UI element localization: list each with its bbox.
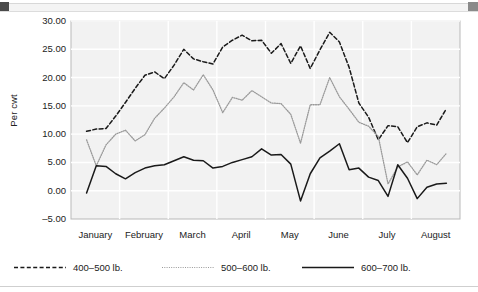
legend-swatch-dotted-icon — [162, 263, 214, 272]
chart-figure: Per cwt 30.0025.0020.0015.0010.005.000.0… — [0, 0, 478, 292]
legend-entry-3: 600–700 lb. — [302, 259, 411, 275]
x-axis-tick: February — [125, 229, 163, 240]
x-axis-tick: June — [328, 229, 349, 240]
chart-legend: 400–500 lb.500–600 lb.600–700 lb. — [14, 259, 474, 279]
legend-entry-1: 400–500 lb. — [14, 259, 123, 275]
legend-entry-2: 500–600 lb. — [162, 259, 271, 275]
legend-swatch-solid-icon — [302, 263, 354, 272]
plot-area — [0, 0, 478, 292]
legend-swatch-dashed-icon — [14, 263, 66, 272]
legend-label: 600–700 lb. — [361, 262, 411, 273]
legend-label: 400–500 lb. — [73, 262, 123, 273]
x-axis-tick: April — [232, 229, 251, 240]
x-axis-tick: March — [179, 229, 205, 240]
x-axis-tick: August — [421, 229, 451, 240]
x-axis-tick: January — [78, 229, 112, 240]
x-axis-tick: July — [379, 229, 396, 240]
x-axis-tick: May — [281, 229, 299, 240]
legend-label: 500–600 lb. — [221, 262, 271, 273]
